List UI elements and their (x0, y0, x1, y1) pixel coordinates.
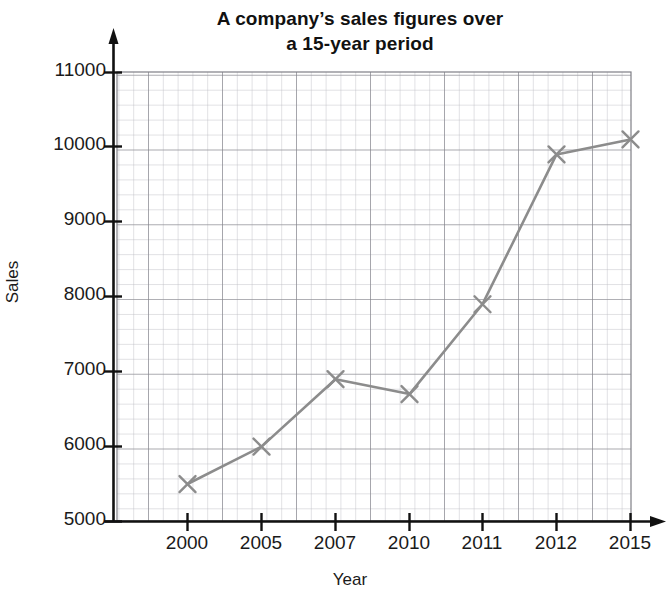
plot-area (0, 0, 672, 603)
grid-major (117, 72, 631, 521)
chart-figure: A company’s sales figures over a 15-year… (0, 0, 672, 603)
